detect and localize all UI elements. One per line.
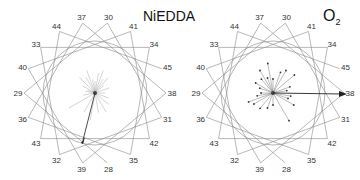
panel-title-o2: O2 [323, 7, 340, 27]
resultant-vector [273, 93, 343, 94]
residue-label: 41 [307, 22, 316, 31]
spoke-dot [248, 101, 250, 103]
residue-label: 36 [18, 115, 27, 124]
spoke [268, 93, 274, 108]
residue-label: 29 [14, 89, 23, 98]
spoke [273, 93, 288, 99]
spoke-dot [290, 95, 292, 97]
spoke-dot [256, 95, 258, 97]
residue-label: 40 [18, 63, 27, 72]
residue-label: 42 [328, 139, 337, 148]
spoke-dot [294, 74, 296, 76]
panel-title-niedda: NiEDDA [143, 8, 195, 24]
residue-label: 37 [255, 13, 264, 22]
residue-label: 32 [52, 156, 61, 165]
spoke [69, 93, 95, 108]
spoke-dot [280, 71, 282, 73]
residue-label: 37 [77, 13, 86, 22]
spoke [273, 93, 289, 121]
residue-label: 31 [341, 115, 350, 124]
spoke-dot [285, 70, 287, 72]
helical-wheel-o2: 373041344538314235283932433629403344 [192, 13, 355, 174]
spoke-dot [260, 92, 262, 94]
residue-label: 39 [255, 165, 264, 174]
residue-label: 28 [104, 165, 113, 174]
helical-wheel-figure: 3730413445383142352839324336294033443730… [0, 0, 360, 180]
residue-label: 38 [346, 89, 355, 98]
residue-label: 32 [230, 156, 239, 165]
residue-label: 34 [328, 40, 337, 49]
residue-label: 36 [196, 115, 205, 124]
spoke-dot [287, 98, 289, 100]
spoke [268, 78, 274, 93]
spoke-dot [261, 78, 263, 80]
spoke-dot [286, 90, 288, 92]
residue-label: 43 [210, 139, 219, 148]
arrow-head-icon [81, 137, 85, 144]
spoke-dot [288, 120, 290, 122]
resultant-vector [83, 93, 95, 140]
residue-label: 33 [210, 40, 219, 49]
spoke-dot [272, 104, 274, 106]
residue-label: 42 [150, 139, 159, 148]
residue-label: 44 [52, 22, 61, 31]
residue-label: 44 [230, 22, 239, 31]
residue-label: 31 [163, 115, 172, 124]
residue-label: 41 [129, 22, 138, 31]
residue-label: 30 [282, 13, 291, 22]
spoke-dot [267, 77, 269, 79]
residue-label: 28 [282, 165, 291, 174]
residue-label: 39 [77, 165, 86, 174]
residue-label: 33 [32, 40, 41, 49]
spoke-dot [267, 107, 269, 109]
spoke-dot [293, 104, 295, 106]
residue-label: 45 [341, 63, 350, 72]
residue-label: 30 [104, 13, 113, 22]
spoke [87, 70, 95, 93]
spoke-dot [267, 63, 269, 65]
spoke-dot [255, 82, 257, 84]
spoke [95, 93, 109, 105]
spoke-dot [259, 107, 261, 109]
spoke [273, 71, 286, 94]
spoke-dot [289, 86, 291, 88]
residue-label: 38 [168, 89, 177, 98]
residue-label: 34 [150, 40, 159, 49]
residue-label: 35 [307, 156, 316, 165]
spoke-dot [272, 78, 274, 80]
spoke-dot [259, 87, 261, 89]
spoke-dot [253, 103, 255, 105]
spoke [95, 93, 108, 98]
residue-label: 40 [196, 63, 205, 72]
residue-label: 45 [163, 63, 172, 72]
spoke-dot [259, 70, 261, 72]
residue-label: 43 [32, 139, 41, 148]
helical-wheel-niedda: 373041344538314235283932433629403344 [14, 13, 177, 174]
residue-label: 35 [129, 156, 138, 165]
spoke [256, 83, 273, 93]
residue-label: 29 [192, 89, 201, 98]
